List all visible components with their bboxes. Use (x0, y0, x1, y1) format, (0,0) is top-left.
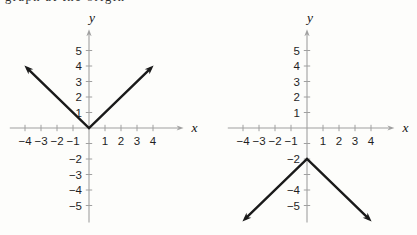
clipped-text-fragment: graph at the origin (5, 0, 126, 5)
y-tick-label: 4 (294, 60, 301, 72)
x-tick-label: 4 (368, 135, 375, 147)
x-tick-label: 1 (320, 135, 326, 147)
y-axis-label: y (305, 10, 313, 25)
x-tick-label: −1 (284, 135, 297, 147)
x-tick-label: 4 (150, 135, 157, 147)
x-axis-label: x (191, 120, 198, 135)
x-tick-label: −1 (66, 135, 79, 147)
x-axis-label: x (401, 120, 408, 135)
x-tick-label: −2 (50, 135, 63, 147)
x-tick-label: −4 (18, 135, 32, 147)
x-tick-label: 2 (118, 135, 124, 147)
y-tick-label: 1 (294, 107, 300, 119)
y-tick-label: −5 (287, 200, 300, 212)
x-tick-label: 2 (336, 135, 342, 147)
x-tick-label: −3 (252, 135, 265, 147)
scanned-textbook-figure: graph at the origin −4−3−2−1123454321−2−… (0, 0, 417, 235)
y-tick-label: 2 (294, 91, 300, 103)
graph-right: −4−3−2−1123454321−2−4−5xy (228, 10, 409, 222)
y-tick-label: 5 (294, 45, 300, 57)
x-tick-label: 3 (134, 135, 140, 147)
graph-left: −4−3−2−1123454321−2−3−4−5xy (10, 10, 198, 222)
y-tick-label: 2 (76, 91, 82, 103)
y-tick-label: −2 (69, 153, 82, 165)
y-tick-label: −4 (69, 184, 83, 196)
y-tick-label: 3 (294, 76, 300, 88)
y-tick-label: −4 (287, 184, 301, 196)
y-tick-label: 4 (76, 60, 83, 72)
coordinate-graphs-canvas: −4−3−2−1123454321−2−3−4−5xy−4−3−2−112345… (0, 0, 417, 235)
y-tick-label: −5 (69, 200, 82, 212)
x-tick-label: −2 (268, 135, 281, 147)
x-tick-label: 1 (102, 135, 108, 147)
y-tick-label: −3 (69, 169, 82, 181)
x-tick-label: −4 (236, 135, 250, 147)
x-tick-label: 3 (352, 135, 358, 147)
y-tick-label: 3 (76, 76, 82, 88)
y-axis-label: y (87, 10, 95, 25)
y-tick-label: −2 (287, 153, 300, 165)
x-tick-label: −3 (34, 135, 47, 147)
y-tick-label: 5 (76, 45, 82, 57)
